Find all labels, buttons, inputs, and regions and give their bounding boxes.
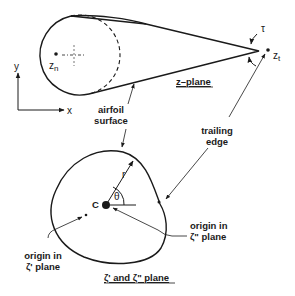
- svg-text:surface: surface: [94, 115, 128, 126]
- airfoil-outline: [40, 16, 259, 95]
- airfoil-surface-annotation: airfoil surface: [94, 84, 134, 147]
- airfoil-conformal-mapping-diagram: zn zt τ y x z–plane airfoil surface trai…: [0, 0, 295, 296]
- origin-zeta-double-prime-label-2: ζ" plane: [190, 231, 226, 242]
- trailing-point-label: zt: [273, 50, 281, 63]
- origin-zeta-double-prime-label-1: origin in: [190, 220, 228, 231]
- svg-text:airfoil: airfoil: [98, 104, 124, 115]
- nose-circle-dashed: [71, 15, 120, 94]
- leading-point-label: zn: [49, 60, 58, 73]
- tau-label: τ: [261, 23, 265, 34]
- tau-arrow-upper: [251, 34, 257, 44]
- tau-arrow-lower: [249, 57, 256, 66]
- zeta-plane: C r θ origin in ζ' plane origin in ζ" pl…: [24, 151, 227, 283]
- x-axis-label: x: [67, 105, 72, 116]
- svg-text:trailing: trailing: [201, 125, 233, 136]
- center-label: C: [92, 199, 99, 210]
- theta-label: θ: [114, 191, 120, 202]
- radius-label: r: [122, 169, 126, 180]
- z-plane-title: z–plane: [176, 76, 211, 87]
- y-axis-label: y: [14, 61, 19, 72]
- z-plane: zn zt τ y x z–plane: [14, 15, 281, 116]
- svg-text:edge: edge: [206, 136, 228, 147]
- trailing-point-dot: [266, 48, 270, 52]
- origin-zeta-prime-label-2: ζ' plane: [26, 261, 60, 272]
- leading-point-dot: [54, 52, 58, 56]
- zeta-plane-title: ζ' and ζ" plane: [104, 272, 169, 283]
- origin-zeta-prime-label-1: origin in: [24, 250, 62, 261]
